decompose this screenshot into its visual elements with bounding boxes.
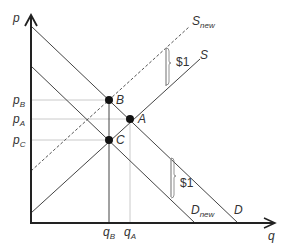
tick-pa: pA xyxy=(12,112,25,128)
supply-shift-label: $1 xyxy=(176,55,190,69)
label-d: D xyxy=(234,203,243,217)
demand-curve-d-new xyxy=(31,66,195,223)
label-s-new: Snew xyxy=(192,14,216,30)
demand-shift-label: $1 xyxy=(180,176,194,190)
label-s: S xyxy=(200,48,208,62)
tick-qb: qB xyxy=(103,225,116,241)
point-b-label: B xyxy=(116,93,124,107)
point-a-marker xyxy=(126,115,134,123)
demand-shift-brace xyxy=(171,158,176,198)
point-c-marker xyxy=(105,136,113,144)
tick-pc: pC xyxy=(12,133,26,149)
point-b-marker xyxy=(105,96,113,104)
point-a-label: A xyxy=(137,112,146,126)
x-axis-label: q xyxy=(268,229,275,243)
label-d-new: Dnew xyxy=(191,203,216,219)
y-axis-label: p xyxy=(12,11,20,25)
tick-pb: pB xyxy=(12,93,26,109)
tick-qa: qA xyxy=(124,225,136,241)
supply-demand-diagram: $1 $1 p q pB pA pC qB qA Snew S D Dnew B… xyxy=(0,0,286,248)
guide-lines xyxy=(31,100,130,223)
supply-shift-brace xyxy=(166,48,171,86)
point-c-label: C xyxy=(116,133,125,147)
